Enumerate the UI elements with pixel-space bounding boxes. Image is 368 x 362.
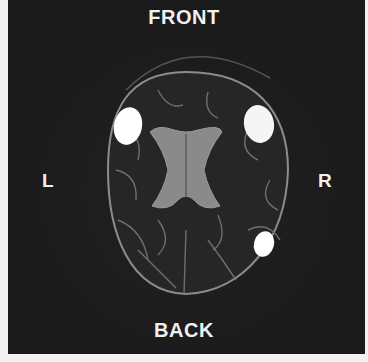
label-front: FRONT bbox=[0, 6, 368, 29]
scan-panel bbox=[8, 0, 365, 354]
brain-scan-image bbox=[8, 0, 365, 354]
label-right: R bbox=[318, 170, 332, 192]
label-left: L bbox=[42, 170, 54, 192]
label-back: BACK bbox=[0, 319, 368, 342]
